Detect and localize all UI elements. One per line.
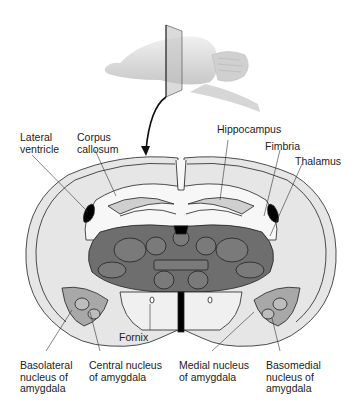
label-lateral-ventricle: Lateral ventricle <box>20 132 59 155</box>
coronal-section <box>26 157 336 347</box>
label-thalamus: Thalamus <box>295 156 341 168</box>
arrow-to-section <box>141 97 166 156</box>
label-fornix: Fornix <box>119 332 148 344</box>
lateral-brain-view <box>105 25 260 112</box>
label-basomedial-nucleus: Basomedial nucleus of amygdala <box>266 360 321 395</box>
label-corpus-callosum: Corpus callosum <box>77 132 118 155</box>
label-fimbria: Fimbria <box>265 141 300 153</box>
label-medial-nucleus: Medial nucleus of amygdala <box>179 360 249 383</box>
label-central-nucleus: Central nucleus of amygdala <box>89 360 162 383</box>
label-hippocampus: Hippocampus <box>217 124 281 136</box>
label-basolateral-nucleus: Basolateral nucleus of amygdala <box>20 360 73 395</box>
brain-coronal-section-diagram <box>0 0 362 407</box>
